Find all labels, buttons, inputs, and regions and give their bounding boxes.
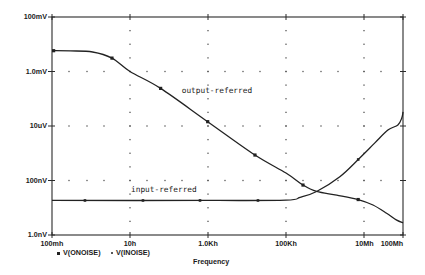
- grid-dot: [320, 71, 321, 72]
- grid-dot: [129, 166, 130, 167]
- grid-dot: [224, 180, 225, 181]
- grid-dot: [129, 207, 130, 208]
- grid-dot: [363, 207, 364, 208]
- grid-dot: [207, 98, 208, 99]
- grid-dot: [224, 125, 225, 126]
- grid-dot: [337, 125, 338, 126]
- grid-dot: [207, 139, 208, 140]
- x-tick-label-10h: 10h: [110, 240, 150, 248]
- curve-vonoise: [52, 51, 403, 223]
- grid-dot: [363, 57, 364, 58]
- dot-marker-icon: [84, 199, 87, 202]
- grid-dot: [164, 180, 165, 181]
- grid-dot: [285, 153, 286, 154]
- grid-dot: [259, 71, 260, 72]
- legend-label-onoise: V(ONOISE): [63, 249, 101, 257]
- grid-dot: [380, 180, 381, 181]
- grid-dot: [259, 125, 260, 126]
- square-marker-icon: [357, 198, 360, 201]
- grid-dot: [164, 71, 165, 72]
- grid-dot: [302, 71, 303, 72]
- grid-dot: [146, 71, 147, 72]
- grid-dot: [207, 30, 208, 31]
- grid-dot: [129, 112, 130, 113]
- grid-dot: [207, 57, 208, 58]
- legend-label-inoise: V(INOISE): [116, 249, 150, 257]
- grid-dot: [363, 166, 364, 167]
- x-tick-label-100Kh: 100Kh: [266, 240, 306, 248]
- grid-dot: [363, 44, 364, 45]
- grid-dot: [181, 71, 182, 72]
- grid-dot: [285, 180, 286, 181]
- x-tick-label-100mh: 100mh: [32, 240, 72, 248]
- grid-dot: [259, 180, 260, 181]
- square-marker-icon: [159, 87, 162, 90]
- grid-dot: [285, 98, 286, 99]
- grid-dots: [68, 30, 381, 222]
- grid-dot: [363, 112, 364, 113]
- grid-dot: [86, 125, 87, 126]
- series-curves: [52, 49, 403, 223]
- x-tick-label-100Mh: 100Mh: [372, 240, 412, 248]
- grid-dot: [285, 166, 286, 167]
- grid-dot: [285, 207, 286, 208]
- grid-dot: [207, 221, 208, 222]
- grid-dot: [129, 139, 130, 140]
- grid-dot: [207, 193, 208, 194]
- grid-dot: [302, 125, 303, 126]
- y-tick-label-100nV: 100nV: [7, 177, 47, 185]
- annotation-input-referred: input-referred: [131, 185, 197, 194]
- grid-dot: [129, 153, 130, 154]
- annotation-output-referred: output-referred: [182, 86, 252, 95]
- grid-dot: [363, 71, 364, 72]
- grid-dot: [242, 125, 243, 126]
- y-tick-label-100mV: 100mV: [7, 13, 47, 21]
- grid-dot: [146, 180, 147, 181]
- grid-dot: [363, 180, 364, 181]
- x-tick-label-1Kh: 1.0Kh: [188, 240, 228, 248]
- grid-dot: [363, 221, 364, 222]
- grid-dot: [129, 84, 130, 85]
- grid-dot: [363, 193, 364, 194]
- grid-dot: [103, 125, 104, 126]
- dot-marker-icon: [111, 252, 113, 254]
- grid-dot: [207, 153, 208, 154]
- grid-dot: [363, 139, 364, 140]
- plot-area: [0, 0, 425, 275]
- curve-vinoise: [52, 112, 403, 201]
- grid-dot: [181, 180, 182, 181]
- grid-dot: [302, 180, 303, 181]
- square-marker-icon: [206, 120, 209, 123]
- grid-dot: [103, 180, 104, 181]
- grid-dot: [363, 30, 364, 31]
- noise-plot-figure: 100mV 1.0mV 10uV 100nV 1.0nV 100mh 10h 1…: [0, 0, 425, 275]
- grid-dot: [129, 30, 130, 31]
- grid-dot: [129, 180, 130, 181]
- grid-dot: [207, 112, 208, 113]
- grid-dot: [285, 112, 286, 113]
- grid-dot: [285, 44, 286, 45]
- grid-dot: [224, 71, 225, 72]
- grid-dot: [285, 71, 286, 72]
- grid-dot: [285, 84, 286, 85]
- grid-dot: [207, 166, 208, 167]
- grid-dot: [146, 125, 147, 126]
- square-marker-icon: [301, 183, 304, 186]
- grid-dot: [337, 180, 338, 181]
- grid-dot: [363, 84, 364, 85]
- grid-dot: [207, 180, 208, 181]
- grid-dot: [68, 71, 69, 72]
- square-marker-icon: [253, 153, 256, 156]
- grid-dot: [103, 71, 104, 72]
- x-axis-title: Frequency: [193, 258, 229, 266]
- grid-dot: [285, 57, 286, 58]
- grid-dot: [285, 139, 286, 140]
- dot-marker-icon: [257, 199, 260, 202]
- grid-dot: [68, 125, 69, 126]
- grid-dot: [129, 125, 130, 126]
- grid-dot: [86, 180, 87, 181]
- grid-dot: [363, 98, 364, 99]
- grid-dot: [242, 180, 243, 181]
- grid-dot: [129, 221, 130, 222]
- grid-dot: [207, 44, 208, 45]
